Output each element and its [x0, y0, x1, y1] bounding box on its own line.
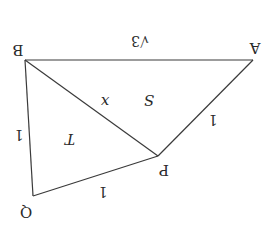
vertex-label-Q: Q — [20, 203, 32, 221]
segment-BP — [25, 60, 158, 156]
segment-label-AP: 1 — [209, 112, 218, 128]
vertex-label-A: A — [249, 39, 261, 57]
region-label-T: T — [64, 130, 75, 148]
segment-label-BQ: 1 — [15, 127, 24, 143]
vertex-label-B: B — [12, 41, 23, 59]
geometry-diagram: B A P Q √3 x 1 1 1 S T — [0, 0, 265, 226]
vertex-label-P: P — [159, 161, 169, 179]
segment-AP — [158, 60, 253, 156]
diagram-canvas: B A P Q √3 x 1 1 1 S T — [0, 0, 265, 226]
segment-label-PQ: 1 — [99, 184, 108, 200]
segment-PQ — [33, 156, 158, 196]
segment-BQ — [25, 60, 33, 196]
segment-label-BP: x — [100, 93, 109, 111]
region-label-S: S — [144, 91, 154, 109]
segment-label-AB: √3 — [131, 33, 149, 49]
